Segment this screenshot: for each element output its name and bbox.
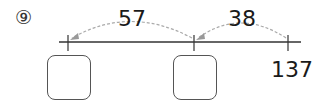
arrowhead-left-icon [70, 33, 79, 40]
answer-box-1[interactable] [47, 55, 91, 100]
answer-box-2[interactable] [173, 55, 217, 100]
jump-label-57: 57 [118, 6, 146, 31]
end-value-label: 137 [271, 57, 313, 82]
arrowhead-left-icon [196, 33, 205, 40]
jump-label-38: 38 [228, 6, 256, 31]
